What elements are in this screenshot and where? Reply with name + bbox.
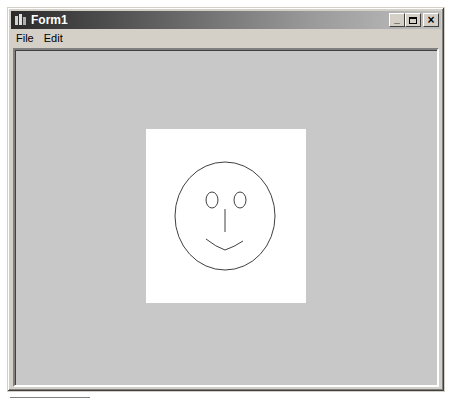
menu-edit[interactable]: Edit bbox=[39, 32, 68, 44]
close-button[interactable]: × bbox=[423, 13, 439, 27]
menu-bar: File Edit bbox=[11, 30, 441, 46]
app-icon[interactable] bbox=[14, 13, 28, 27]
title-bar[interactable]: Form1 _ × bbox=[11, 11, 441, 29]
drawing-canvas[interactable] bbox=[146, 129, 306, 303]
menu-file[interactable]: File bbox=[11, 32, 39, 44]
left-eye bbox=[206, 192, 218, 208]
window-controls: _ × bbox=[389, 13, 439, 27]
smiley-face-drawing bbox=[146, 129, 306, 303]
right-eye bbox=[234, 192, 246, 208]
minimize-button[interactable]: _ bbox=[389, 13, 405, 27]
close-icon: × bbox=[427, 15, 434, 25]
minimize-icon: _ bbox=[394, 13, 400, 24]
divider bbox=[10, 397, 90, 398]
window-title: Form1 bbox=[31, 13, 68, 27]
maximize-button[interactable] bbox=[405, 13, 421, 27]
mouth bbox=[206, 239, 243, 250]
maximize-icon bbox=[409, 17, 417, 24]
